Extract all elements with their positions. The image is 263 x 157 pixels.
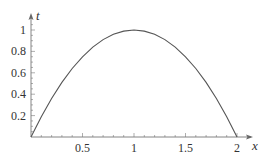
x-tick-label: 0.5 <box>75 141 90 155</box>
y-axis-label: t <box>36 8 40 23</box>
x-tick-label: 1.5 <box>178 141 193 155</box>
data-curve <box>31 30 237 137</box>
axes <box>29 13 254 140</box>
tick-labels: 0.511.520.20.40.60.81 <box>11 23 240 155</box>
y-tick-label: 0.2 <box>11 109 26 123</box>
y-tick-label: 0.8 <box>11 44 26 58</box>
x-tick-label: 1 <box>131 141 137 155</box>
x-axis-label: x <box>251 138 258 153</box>
y-tick-label: 1 <box>20 23 26 37</box>
line-chart: 0.511.520.20.40.60.81 x t <box>0 0 263 157</box>
x-tick-label: 2 <box>234 141 240 155</box>
y-tick-label: 0.4 <box>11 87 26 101</box>
y-tick-label: 0.6 <box>11 66 26 80</box>
